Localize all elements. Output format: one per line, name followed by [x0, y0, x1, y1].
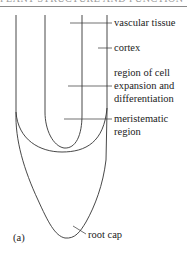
label-meristem-line1: meristematic [114, 113, 169, 124]
label-vascular-tissue: vascular tissue [114, 17, 176, 28]
label-root-cap: root cap [88, 229, 122, 240]
meristem-boundary [16, 108, 107, 152]
label-elongation-line1: region of cell [114, 67, 170, 78]
outer-left-edge [16, 15, 107, 238]
label-elongation-line3: differentiation [114, 93, 175, 104]
figure-label: (a) [13, 232, 25, 244]
label-cortex: cortex [114, 42, 141, 53]
label-meristem-line2: region [114, 126, 142, 137]
vascular-cylinder [45, 15, 82, 148]
root-tip-diagram: vascular tissue cortex region of cell ex… [0, 0, 187, 254]
label-elongation-line2: expansion and [114, 80, 175, 91]
pointer-root-cap [73, 226, 86, 234]
